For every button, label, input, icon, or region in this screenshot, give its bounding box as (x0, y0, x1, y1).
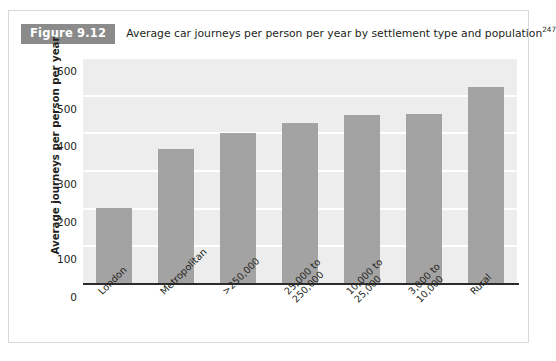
figure-panel: Figure 9.12 Average car journeys per per… (8, 10, 529, 343)
y-axis-tick-label: 200 (57, 216, 77, 228)
caption-main-text: Average car journeys per person per year… (126, 27, 542, 40)
y-axis-tick-label: 100 (57, 253, 77, 265)
y-axis-tick-label: 0 (70, 291, 77, 303)
y-axis-tick-labels: 0100200300400500600 (43, 71, 77, 283)
chart-area: Average journeys per person per year 010… (21, 57, 518, 332)
y-axis-tick-label: 400 (57, 140, 77, 152)
figure-number-badge: Figure 9.12 (21, 24, 115, 45)
figure-caption-row: Figure 9.12 Average car journeys per per… (21, 23, 518, 45)
y-axis-tick-label: 500 (57, 103, 77, 115)
caption-reference-marker: 247 (542, 25, 556, 34)
bar-series (83, 57, 517, 283)
bar (406, 114, 443, 283)
y-axis-tick-label: 300 (57, 178, 77, 190)
y-axis-tick-label: 600 (57, 65, 77, 77)
plot-area (83, 57, 517, 283)
figure-caption-text: Average car journeys per person per year… (126, 29, 556, 40)
x-axis-tick-labels: LondonMetropolitan>250,00025,000 to250,0… (83, 285, 517, 333)
bar (468, 87, 505, 283)
